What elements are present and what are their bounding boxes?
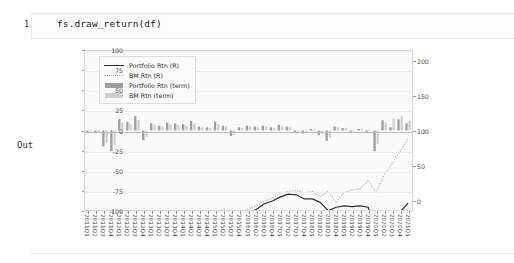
chart-bar (361, 129, 363, 131)
chart-gridline (85, 111, 412, 112)
x-axis-tick-label: 2012Q1 (116, 214, 122, 237)
chart-bar (270, 127, 272, 130)
chart-bar (278, 125, 280, 131)
y-axis-left-tick-label: 50 (95, 87, 123, 94)
chart-bar (310, 129, 312, 131)
chart-bar (393, 119, 395, 131)
x-axis-tick-label: 2020Q1 (373, 214, 379, 237)
x-axis-tick-label: 2015Q1 (212, 214, 218, 237)
x-axis-tick-label: 2016Q4 (269, 214, 275, 237)
y-axis-left-tick-mark (82, 90, 85, 91)
x-axis-tick-label: 2018Q4 (333, 214, 339, 237)
x-axis-tick-label: 2019Q2 (349, 214, 355, 237)
x-axis-tick-label: 2017Q4 (301, 214, 307, 237)
chart-bar (341, 128, 343, 130)
chart-bar (134, 116, 136, 130)
y-axis-right-tick-mark (413, 61, 416, 62)
chart-gridline (85, 51, 412, 52)
chart-bar (126, 122, 128, 131)
chart-bar (217, 124, 219, 130)
y-axis-left-tick-label: -25 (95, 147, 123, 154)
legend-label: BM Rtn (R) (129, 72, 163, 79)
x-axis-tick-label: 2019Q3 (357, 214, 363, 237)
y-axis-left-tick-mark (82, 110, 85, 111)
chart-bar (289, 127, 291, 130)
y-axis-right-tick-label: 100 (417, 127, 447, 134)
chart-bar (137, 120, 139, 130)
chart-gridline (85, 152, 412, 153)
chart-bar (385, 123, 387, 131)
y-axis-left-tick-mark (82, 50, 85, 51)
chart-bar (345, 128, 347, 130)
x-axis-tick-label: 2017Q3 (293, 214, 299, 237)
chart-bar (185, 126, 187, 131)
legend-label: Portfolio Rtn (R) (129, 62, 179, 69)
chart-gridline (85, 172, 412, 173)
x-axis-tick-label: 2012Q3 (132, 214, 138, 237)
chart-bar (222, 126, 224, 131)
x-axis-tick-label: 2012Q4 (140, 214, 146, 237)
y-axis-left-tick-label: 75 (95, 67, 123, 74)
chart-bar (209, 128, 211, 130)
chart-bar (257, 127, 259, 130)
x-axis-tick-label: 2014Q4 (204, 214, 210, 237)
chart-bar (174, 123, 176, 130)
x-axis-tick-label: 2018Q2 (317, 214, 323, 237)
chart-bar (286, 127, 288, 131)
chart-bar (238, 127, 240, 130)
y-axis-left-tick-mark (82, 151, 85, 152)
x-axis-tick-label: 2014Q3 (196, 214, 202, 237)
chart-line-series (89, 194, 408, 210)
chart-bar (206, 127, 208, 130)
chart-bar (246, 126, 248, 131)
x-axis-tick-label: 2016Q2 (253, 214, 259, 237)
x-axis-tick-label: 2013Q3 (164, 214, 170, 237)
chart-bar (265, 127, 267, 131)
chart-bar (397, 119, 399, 130)
chart-bar (373, 131, 375, 152)
chart-bar (166, 123, 168, 131)
chart-bar (158, 126, 160, 131)
chart-bar (169, 124, 171, 130)
x-axis-tick-label: 2018Q3 (325, 214, 331, 237)
x-axis-tick-label: 2011Q4 (108, 214, 114, 237)
chart-bar (177, 125, 179, 131)
chart-bar-series (89, 116, 410, 145)
x-axis-tick-label: 2019Q4 (365, 214, 371, 237)
chart-bar (262, 126, 264, 131)
chart-bar (405, 123, 407, 130)
y-axis-left-tick-mark (82, 211, 85, 212)
y-axis-left-tick-label: -50 (95, 167, 123, 174)
y-axis-right-tick-mark (413, 131, 416, 132)
x-axis-tick-label: 2011Q3 (100, 214, 106, 237)
cell-divider-footer (31, 253, 514, 254)
chart-bar (409, 121, 411, 131)
chart-bar (161, 127, 163, 131)
y-axis-left-tick-mark (82, 171, 85, 172)
cell-divider-bottom (31, 38, 514, 39)
code-input-text[interactable]: fs.draw_return(df) (57, 18, 162, 29)
x-axis-tick-label: 2021Q1 (405, 214, 411, 237)
x-axis-tick-label: 2019Q1 (341, 214, 347, 237)
y-axis-left-tick-mark (82, 70, 85, 71)
chart-bar (241, 128, 243, 130)
chart-bar (381, 120, 383, 130)
y-axis-left-tick-label: 100 (95, 47, 123, 54)
x-axis-tick-label: 2017Q2 (285, 214, 291, 237)
x-axis-tick-label: 2020Q3 (389, 214, 395, 237)
x-axis-tick-label: 2015Q2 (220, 214, 226, 237)
x-axis-tick-label: 2012Q2 (124, 214, 130, 237)
chart-bar (337, 127, 339, 130)
y-axis-right-tick-label: 0 (417, 197, 447, 204)
chart-bar-series (86, 116, 407, 151)
chart-bar (389, 127, 391, 130)
notebook-output-area: 1 fs.draw_return(df) Out Portfolio Rtn (… (0, 0, 514, 263)
chart-bar (401, 116, 403, 130)
chart-line-series (89, 139, 408, 210)
chart-bar (313, 129, 315, 131)
y-axis-right-tick-mark (413, 96, 416, 97)
cell-prompt-number: 1 (24, 19, 29, 29)
chart-bar (334, 127, 336, 131)
y-axis-left-tick-mark (82, 131, 85, 132)
chart-bar (198, 127, 200, 131)
